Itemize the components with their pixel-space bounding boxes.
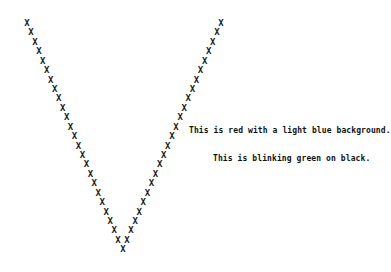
red-on-light-blue-text: This is red with a light blue background… bbox=[189, 126, 391, 135]
blinking-green-on-black-text: This is blinking green on black. bbox=[213, 154, 370, 163]
x-glyph: X bbox=[120, 245, 126, 254]
